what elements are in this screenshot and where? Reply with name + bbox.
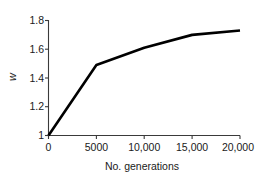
x-axis-tick-labels: 0 5000 10,000 15,000 20,000 (46, 141, 255, 153)
y-tick-label-1.6: 1.6 (29, 43, 44, 55)
x-tick-label-20000: 20,000 (222, 141, 254, 153)
x-tick-label-5000: 5000 (85, 141, 109, 153)
line-chart: 1.8 1.6 1.4 1.2 1 w (0, 0, 263, 176)
y-tick-label-1: 1 (38, 129, 44, 141)
y-tick-label-1.8: 1.8 (29, 14, 44, 26)
x-tick-label-15000: 15,000 (176, 141, 208, 153)
y-tick-label-1.4: 1.4 (29, 72, 44, 84)
data-series-line (49, 31, 241, 136)
x-tick-label-0: 0 (46, 141, 52, 153)
y-axis-tick-labels: 1.8 1.6 1.4 1.2 1 (29, 14, 44, 141)
y-axis-title: w (6, 72, 18, 81)
y-tick-label-1.2: 1.2 (29, 100, 44, 112)
x-tick-label-10000: 10,000 (128, 141, 160, 153)
figure-container: 1.8 1.6 1.4 1.2 1 w (0, 0, 263, 176)
x-axis-title: No. generations (105, 160, 179, 172)
